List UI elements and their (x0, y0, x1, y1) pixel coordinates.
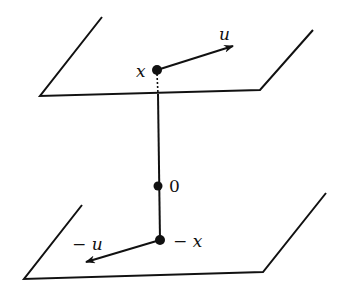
diagram-canvas: x u 0 − x − u (0, 0, 347, 298)
label-neg-u: − u (72, 234, 103, 254)
label-x: x (136, 61, 146, 81)
diagram-svg: x u 0 − x − u (0, 0, 347, 298)
point-x (152, 65, 162, 75)
label-neg-x: − x (173, 231, 203, 251)
vector-u-arrow (157, 46, 233, 70)
point-neg-x (155, 235, 165, 245)
point-origin (154, 182, 163, 191)
label-origin: 0 (169, 176, 180, 196)
hidden-segment (157, 74, 158, 94)
top-plane (40, 17, 313, 96)
line-through-origin (158, 94, 160, 240)
label-u: u (219, 24, 230, 44)
